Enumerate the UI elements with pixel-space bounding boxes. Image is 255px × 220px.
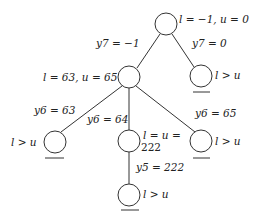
- node-n2: [190, 65, 212, 87]
- node-n4-label-line2: 222: [141, 142, 161, 153]
- node-n5: [190, 130, 212, 152]
- edge-root-n1: [137, 34, 160, 68]
- node-n1-label: l = 63, u = 65: [43, 72, 117, 83]
- node-n3: [44, 131, 66, 153]
- node-n3-label: l > u: [11, 137, 37, 148]
- node-n4: [118, 130, 140, 152]
- node-root-label: l = −1, u = 0: [179, 14, 249, 25]
- edge-root-n2-label: y7 = 0: [192, 38, 227, 49]
- edge-n1-n5: [136, 86, 195, 132]
- node-n6: [118, 184, 140, 206]
- edge-n4-n6-label: y5 = 222: [136, 162, 184, 173]
- edge-root-n2: [172, 34, 194, 67]
- edge-n1-n3-label: y6 = 63: [34, 105, 75, 116]
- node-n6-label: l > u: [143, 189, 169, 200]
- node-n1: [118, 66, 140, 88]
- edge-n1-n4-label: y6 = 64: [87, 114, 128, 125]
- node-n4-label-line1: l = u =: [143, 130, 181, 141]
- node-root: [155, 13, 177, 35]
- node-n5-label: l > u: [215, 136, 241, 147]
- node-n2-label: l > u: [215, 70, 241, 81]
- edge-n1-n5-label: y6 = 65: [195, 108, 236, 119]
- edge-root-n1-label: y7 = −1: [96, 38, 140, 49]
- search-tree-diagram: l = −1, u = 0 l = 63, u = 65 l > u l > u…: [0, 0, 255, 220]
